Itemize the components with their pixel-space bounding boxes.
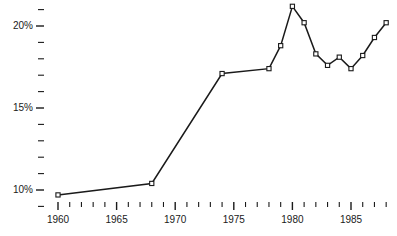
data-series-line: [58, 6, 386, 195]
data-point-marker[interactable]: [279, 44, 283, 48]
data-point-marker[interactable]: [349, 67, 353, 71]
y-axis-tick-label: 10%: [13, 184, 33, 195]
x-axis-tick-label: 1960: [28, 214, 88, 225]
x-axis-tick-label: 1965: [87, 214, 147, 225]
line-chart: 20%15%10%196019651970197519801985: [0, 0, 397, 236]
x-axis-tick-label: 1970: [145, 214, 205, 225]
data-point-marker[interactable]: [325, 63, 329, 67]
x-axis-tick-label: 1975: [204, 214, 264, 225]
data-point-marker[interactable]: [290, 4, 294, 8]
data-point-marker[interactable]: [384, 21, 388, 25]
data-point-marker[interactable]: [372, 35, 376, 39]
data-point-marker[interactable]: [337, 55, 341, 59]
y-axis-tick-label: 15%: [13, 102, 33, 113]
data-point-marker[interactable]: [302, 21, 306, 25]
data-point-marker[interactable]: [56, 193, 60, 197]
chart-plot-area: [0, 0, 397, 236]
x-axis-tick-label: 1985: [321, 214, 381, 225]
y-axis-tick-label: 20%: [13, 20, 33, 31]
x-axis-tick-label: 1980: [262, 214, 322, 225]
data-point-marker[interactable]: [150, 181, 154, 185]
data-point-marker[interactable]: [220, 71, 224, 75]
data-point-marker[interactable]: [361, 53, 365, 57]
data-point-marker[interactable]: [314, 52, 318, 56]
data-point-marker[interactable]: [267, 67, 271, 71]
